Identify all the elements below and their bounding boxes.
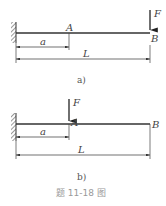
figure-b: F A B a L b) — [11, 97, 159, 182]
dimension-l-label: L — [77, 144, 85, 155]
figure-a: F A B a L a) — [11, 8, 162, 85]
point-b-label: B — [150, 33, 158, 44]
fixed-support-wall — [11, 22, 16, 43]
fixed-support-wall — [11, 113, 16, 141]
point-b-label: B — [151, 119, 159, 130]
figure-a-caption: a) — [77, 75, 86, 85]
point-a-label: A — [70, 117, 78, 128]
dimension-l-label: L — [82, 48, 90, 59]
point-a-label: A — [65, 22, 73, 33]
figure-title: 题 11-18 图 — [56, 188, 106, 198]
figure-b-caption: b) — [77, 172, 86, 182]
dimension-a-label: a — [40, 126, 46, 137]
cantilever-beam-diagrams: F A B a L a) F A B a L b) 题 11-18 图 — [0, 0, 166, 206]
dimension-a-label: a — [40, 36, 46, 47]
force-label: F — [153, 8, 162, 19]
force-label: F — [72, 97, 81, 108]
